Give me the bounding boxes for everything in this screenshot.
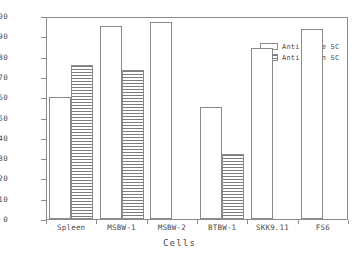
bar-spleen-anti-human-sc bbox=[71, 65, 93, 219]
x-tick-mark bbox=[348, 220, 349, 224]
plot-area: Anti-Mouse SCAnti-Human SC bbox=[46, 17, 348, 220]
y-tick-label: 90 bbox=[0, 33, 8, 41]
x-tick-label-msbw-2: MSBW-2 bbox=[147, 223, 197, 232]
bar-btbw-1-anti-human-sc bbox=[222, 154, 244, 219]
bar-spleen-anti-mouse-sc bbox=[49, 97, 71, 219]
y-tick-label: 40 bbox=[0, 135, 8, 143]
bar-msbw-1-anti-mouse-sc bbox=[100, 26, 122, 219]
x-tick-label-fs6: FS6 bbox=[298, 223, 348, 232]
y-tick-label: 0 bbox=[0, 216, 8, 224]
y-tick-label: 50 bbox=[0, 115, 8, 123]
y-tick-label: 20 bbox=[0, 175, 8, 183]
x-tick-label-spleen: Spleen bbox=[46, 223, 96, 232]
bar-fs6-anti-mouse-sc bbox=[301, 29, 323, 219]
y-tick-label: 10 bbox=[0, 196, 8, 204]
y-tick-label: 100 bbox=[0, 13, 8, 21]
bar-btbw-1-anti-mouse-sc bbox=[200, 107, 222, 219]
x-tick-label-msbw-1: MSBW-1 bbox=[96, 223, 146, 232]
bar-skk9-11-anti-mouse-sc bbox=[251, 48, 273, 219]
y-tick-label: 70 bbox=[0, 74, 8, 82]
x-tick-label-btbw-1: BTBW-1 bbox=[197, 223, 247, 232]
bar-chart-figure: % Inhibition of IgA-Mediated Rosettes 01… bbox=[0, 0, 359, 259]
bar-msbw-2-anti-mouse-sc bbox=[150, 22, 172, 219]
y-tick-label: 80 bbox=[0, 54, 8, 62]
bar-msbw-1-anti-human-sc bbox=[122, 70, 144, 219]
y-tick-label: 60 bbox=[0, 94, 8, 102]
x-axis-title: Cells bbox=[0, 238, 359, 248]
x-tick-label-skk9-11: SKK9.11 bbox=[247, 223, 297, 232]
y-tick-label: 30 bbox=[0, 155, 8, 163]
